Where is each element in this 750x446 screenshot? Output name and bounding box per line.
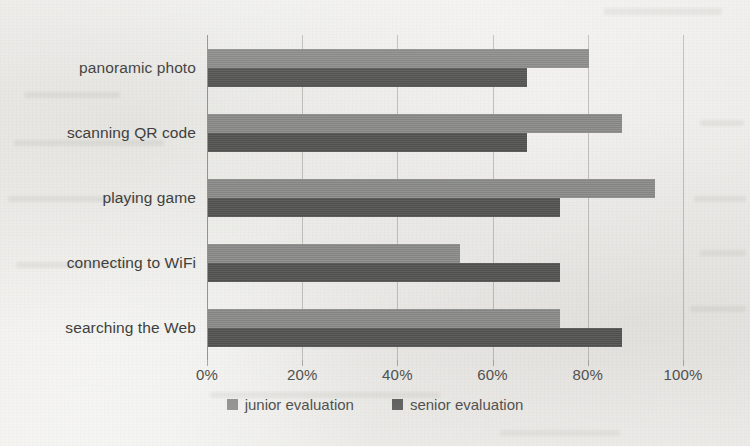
horizontal-bar-chart: 0%20%40%60%80%100% panoramic photoscanni… [0, 0, 750, 446]
legend-item: senior evaluation [392, 396, 523, 413]
x-axis-tick-label: 40% [382, 366, 413, 383]
bar-senior-2 [208, 133, 527, 152]
category-label: connecting to WiFi [6, 254, 196, 272]
bar-junior-1 [208, 49, 589, 68]
legend-swatch-icon [227, 399, 238, 410]
x-axis-tick-label: 80% [572, 366, 603, 383]
legend-label: junior evaluation [245, 396, 354, 413]
category-label: scanning QR code [6, 124, 196, 142]
bar-junior-5 [208, 309, 560, 328]
category-label: searching the Web [6, 319, 196, 337]
bar-senior-3 [208, 198, 560, 217]
x-axis-tick-label: 20% [287, 366, 318, 383]
bar-senior-1 [208, 68, 527, 87]
legend-swatch-icon [392, 399, 403, 410]
x-axis-tick-label: 60% [477, 366, 508, 383]
x-axis-tick-label: 100% [663, 366, 702, 383]
chart-legend: junior evaluationsenior evaluation [0, 396, 750, 413]
bar-junior-3 [208, 179, 655, 198]
legend-label: senior evaluation [410, 396, 523, 413]
bar-senior-5 [208, 328, 622, 347]
bar-junior-2 [208, 114, 622, 133]
category-axis-labels: panoramic photoscanning QR codeplaying g… [0, 0, 196, 446]
legend-item: junior evaluation [227, 396, 354, 413]
gridline [683, 35, 684, 360]
category-label: playing game [6, 189, 196, 207]
bar-senior-4 [208, 263, 560, 282]
gridline [588, 35, 589, 360]
bar-junior-4 [208, 244, 460, 263]
x-axis-tick-label: 0% [196, 366, 218, 383]
category-label: panoramic photo [6, 59, 196, 77]
